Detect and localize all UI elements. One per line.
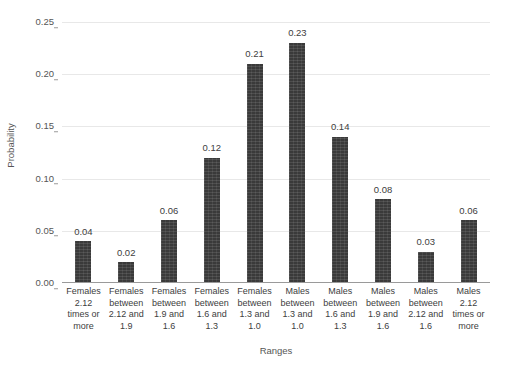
bar-column[interactable]: 0.06: [447, 22, 490, 283]
y-axis-tick-mark: [54, 79, 58, 80]
bar[interactable]: [204, 158, 220, 283]
bar[interactable]: [75, 241, 91, 283]
bar-value-label: 0.21: [233, 49, 276, 59]
chart-screenshot: Probability 0.000.050.100.150.200.25 0.0…: [0, 0, 505, 369]
y-axis-tick-label: 0.10: [20, 174, 54, 184]
x-axis-tick-label: Malesbetween1.9 and1.6: [362, 286, 405, 332]
x-axis-tick-label: Femalesbetween1.3 and1.0: [233, 286, 276, 332]
x-axis-tick-label: Malesbetween2.12 and1.6: [404, 286, 447, 332]
bar[interactable]: [332, 137, 348, 283]
x-axis-tick-label: Femalesbetween1.6 and1.3: [190, 286, 233, 332]
bar-value-label: 0.02: [105, 248, 148, 258]
bar[interactable]: [375, 199, 391, 283]
y-axis-tick-label: 0.00: [20, 278, 54, 288]
y-axis-tick-mark: [54, 131, 58, 132]
y-axis-tick-mark: [54, 236, 58, 237]
bar-value-label: 0.04: [62, 227, 105, 237]
bar-value-label: 0.03: [404, 237, 447, 247]
x-axis-tick-label: Femalesbetween1.9 and1.6: [148, 286, 191, 332]
y-axis-tick-label: 0.05: [20, 226, 54, 236]
x-axis-tick-labels: Females2.12times ormoreFemalesbetween2.1…: [62, 286, 490, 344]
y-axis-tick-labels: 0.000.050.100.150.200.25: [20, 22, 58, 283]
bar-column[interactable]: 0.02: [105, 22, 148, 283]
bar-column[interactable]: 0.14: [319, 22, 362, 283]
bar[interactable]: [118, 262, 134, 283]
x-axis-tick-label: Malesbetween1.3 and1.0: [276, 286, 319, 332]
bar[interactable]: [418, 252, 434, 283]
bar-column[interactable]: 0.12: [190, 22, 233, 283]
bar-value-label: 0.08: [362, 185, 405, 195]
y-axis-tick-mark: [54, 27, 58, 28]
bar[interactable]: [461, 220, 477, 283]
bar-value-label: 0.14: [319, 122, 362, 132]
y-axis-title-text: Probability: [5, 123, 16, 167]
bar-column[interactable]: 0.21: [233, 22, 276, 283]
bar-column[interactable]: 0.23: [276, 22, 319, 283]
y-axis-tick-mark: [54, 183, 58, 184]
bar[interactable]: [289, 43, 305, 283]
bar-value-label: 0.12: [190, 143, 233, 153]
bar-value-label: 0.06: [148, 206, 191, 216]
bar-value-label: 0.06: [447, 206, 490, 216]
x-axis-tick-label: Females2.12times ormore: [62, 286, 105, 332]
bar[interactable]: [247, 64, 263, 283]
x-axis-title: Ranges: [62, 345, 490, 356]
plot-area: 0.040.020.060.120.210.230.140.080.030.06: [62, 22, 490, 283]
y-axis-tick-label: 0.15: [20, 122, 54, 132]
x-axis-tick-label: Femalesbetween2.12 and1.9: [105, 286, 148, 332]
bar[interactable]: [161, 220, 177, 283]
bar-column[interactable]: 0.03: [404, 22, 447, 283]
bar-column[interactable]: 0.06: [148, 22, 191, 283]
bar-column[interactable]: 0.08: [362, 22, 405, 283]
y-axis-tick-mark: [54, 288, 58, 289]
x-axis-tick-label: Malesbetween1.6 and1.3: [319, 286, 362, 332]
y-axis-title: Probability: [0, 0, 20, 290]
bar-column[interactable]: 0.04: [62, 22, 105, 283]
y-axis-tick-label: 0.20: [20, 69, 54, 79]
x-axis-tick-label: Males2.12times ormore: [447, 286, 490, 332]
bar-value-label: 0.23: [276, 28, 319, 38]
y-axis-tick-label: 0.25: [20, 17, 54, 27]
x-axis-line: [62, 282, 490, 283]
